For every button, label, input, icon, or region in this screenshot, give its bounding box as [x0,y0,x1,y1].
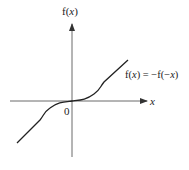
equation-label: f(x) = −f(−x) [125,70,178,81]
origin-label: 0 [64,106,70,117]
odd-function-diagram [0,0,189,170]
x-axis-label: x [150,96,155,107]
function-curve [17,60,128,143]
y-axis-label: f(x) [62,6,78,17]
